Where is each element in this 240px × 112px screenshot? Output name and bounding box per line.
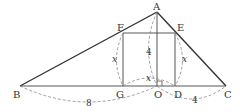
label-C: C — [224, 89, 232, 100]
right-angle-mark — [157, 81, 162, 86]
label-B: B — [13, 89, 20, 100]
measure-ED: x — [182, 54, 187, 64]
label-G: G — [116, 89, 124, 100]
geometry-diagram: A B C E F G O D 8 4 4 x x x — [0, 0, 240, 112]
measure-BO: 8 — [86, 98, 92, 108]
label-D: D — [174, 89, 182, 100]
measure-OC: 4 — [192, 95, 198, 105]
measure-FG: x — [112, 54, 117, 64]
segment-AB — [20, 12, 157, 86]
label-O: O — [154, 89, 162, 100]
segment-AC — [157, 12, 226, 86]
label-E: E — [177, 22, 184, 33]
label-A: A — [152, 1, 161, 12]
measure-AO: 4 — [146, 47, 152, 57]
dim-arc-FG — [117, 33, 124, 86]
measure-GD: x — [146, 73, 151, 83]
label-F: F — [117, 22, 124, 33]
